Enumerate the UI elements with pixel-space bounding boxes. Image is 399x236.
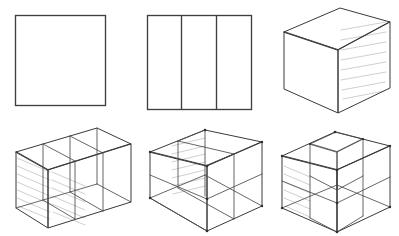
box-bottom-rear-edge [16, 184, 97, 208]
figure-canvas [0, 0, 399, 236]
outer-cube-top-face-2 [282, 132, 390, 170]
square-outline [16, 16, 106, 106]
rear-bottom-edge-right [205, 175, 262, 206]
panel-5-cube-octants [149, 129, 263, 233]
inner-face-hatching [52, 172, 85, 225]
rectangle-outline [148, 16, 252, 110]
outer-cube-right-face-2 [337, 146, 390, 232]
panel-3-cube [284, 8, 390, 113]
panel-4-box-subdivided [16, 128, 131, 228]
right-face-hatching [341, 22, 386, 99]
outer-cube-top-face [150, 130, 262, 166]
geometry-figure [0, 0, 399, 236]
mid-horizontal-plane [150, 174, 262, 199]
panel-2-rectangle-subdivided [148, 16, 252, 110]
panel-1-square [16, 16, 106, 106]
cube-front-face [284, 32, 338, 113]
left-face-hatching-2 [284, 166, 310, 217]
vertex-markers [149, 129, 263, 233]
cube-right-face [338, 22, 390, 113]
panel-6-cube-inner-corner [281, 131, 391, 234]
outer-cube-left-face-2 [282, 156, 337, 232]
vertex-markers-2 [281, 131, 391, 234]
box-bottom-right-edge [97, 184, 131, 202]
mid-vertical-plane-a [178, 141, 234, 219]
outer-cube-left-face [150, 152, 207, 231]
left-face-hatching [17, 158, 50, 219]
